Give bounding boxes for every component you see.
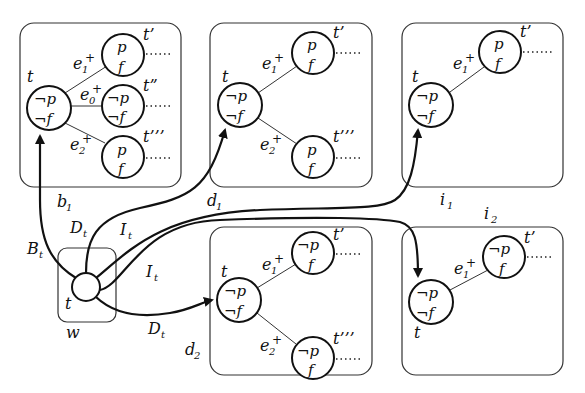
svg-text:¬f: ¬f (416, 107, 437, 125)
svg-text:1: 1 (447, 200, 453, 211)
svg-text:2: 2 (490, 214, 497, 225)
svg-text:p: p (494, 35, 504, 53)
svg-text:t”: t” (143, 76, 158, 95)
svg-text:¬f: ¬f (107, 108, 128, 126)
svg-text:t’: t’ (524, 228, 536, 247)
modal-logic-diagram: t w Bt Dt It It Dt b1 d1 i1 i2 d2 ¬p ¬f … (0, 0, 585, 393)
svg-text:p: p (117, 38, 127, 56)
svg-text:t’: t’ (520, 22, 532, 41)
box-label-i2: i2 (484, 204, 497, 225)
svg-text:+: + (274, 252, 284, 266)
svg-text:2: 2 (268, 145, 275, 156)
svg-text:t’: t’ (333, 225, 345, 244)
svg-text:¬p: ¬p (416, 284, 439, 302)
box-label-i1: i1 (440, 190, 453, 211)
arrow-label-B: Bt (26, 239, 44, 260)
svg-text:i: i (440, 190, 445, 209)
world-node (72, 273, 100, 301)
svg-text:t: t (83, 228, 88, 239)
arrow-D-to-d2 (96, 297, 212, 315)
svg-text:t’’’: t’’’ (333, 127, 355, 146)
svg-text:t: t (221, 262, 228, 281)
svg-text:t’’’: t’’’ (143, 127, 165, 146)
svg-text:¬p: ¬p (225, 87, 248, 105)
svg-text:I: I (145, 262, 153, 281)
svg-text:¬p: ¬p (34, 90, 57, 108)
svg-text:¬p: ¬p (488, 240, 511, 258)
model-i2: ¬p ¬f t ¬p f t’ e1+ (409, 228, 554, 342)
svg-text:t: t (128, 230, 133, 241)
svg-text:D: D (147, 319, 161, 338)
svg-text:t: t (412, 67, 419, 86)
box-label-b1: b1 (57, 192, 72, 213)
svg-text:1: 1 (82, 64, 88, 75)
svg-text:+: + (465, 51, 475, 65)
box-label-d2: d2 (185, 340, 200, 361)
svg-text:¬p: ¬p (224, 282, 247, 300)
world-node-label: t (65, 294, 72, 313)
svg-text:+: + (466, 256, 476, 270)
svg-text:t: t (39, 249, 44, 260)
svg-text:1: 1 (271, 265, 277, 276)
svg-text:p: p (307, 36, 317, 54)
svg-text:+: + (272, 333, 282, 347)
svg-text:+: + (85, 51, 95, 65)
svg-text:t’: t’ (143, 25, 155, 44)
svg-text:t: t (414, 323, 421, 342)
svg-text:D: D (69, 218, 83, 237)
svg-text:0: 0 (89, 95, 96, 106)
svg-text:1: 1 (462, 64, 468, 75)
arrow-label-D-top: Dt (69, 218, 88, 239)
arrow-label-I-top: It (119, 220, 133, 241)
svg-text:+: + (274, 51, 284, 65)
svg-text:¬f: ¬f (34, 110, 55, 128)
svg-text:t: t (154, 272, 159, 283)
svg-text:¬f: ¬f (224, 302, 245, 320)
svg-text:¬f: ¬f (416, 304, 437, 322)
svg-text:+: + (92, 82, 102, 96)
svg-text:¬p: ¬p (297, 236, 320, 254)
svg-text:B: B (26, 239, 39, 258)
model-i1: ¬p ¬f t p f t’ e1+ (409, 22, 552, 127)
svg-text:I: I (119, 220, 127, 239)
svg-text:+: + (82, 132, 92, 146)
svg-text:p: p (117, 141, 127, 159)
model-d1: ¬p ¬f t p f t’ p f t’’’ e1+ e2+ (218, 23, 362, 178)
svg-text:1: 1 (463, 269, 469, 280)
arrow-label-I-bottom: It (145, 262, 159, 283)
svg-text:+: + (272, 132, 282, 146)
svg-text:1: 1 (216, 201, 222, 212)
svg-text:2: 2 (193, 350, 200, 361)
svg-text:p: p (307, 141, 317, 159)
svg-text:t’: t’ (333, 23, 345, 42)
svg-text:t: t (222, 67, 229, 86)
svg-text:¬p: ¬p (416, 87, 439, 105)
arrow-label-D-bottom: Dt (147, 319, 166, 340)
svg-text:¬p: ¬p (107, 89, 130, 107)
model-b1: ¬p ¬f t p f t’ ¬p ¬f t” p f t’’’ e1+ e0+… (27, 25, 172, 178)
svg-text:2: 2 (78, 145, 85, 156)
svg-text:t: t (161, 329, 166, 340)
svg-text:i: i (484, 204, 489, 223)
svg-text:1: 1 (66, 202, 72, 213)
svg-text:1: 1 (271, 64, 277, 75)
svg-text:2: 2 (268, 346, 275, 357)
svg-text:t’’’: t’’’ (333, 329, 355, 348)
svg-text:t: t (27, 67, 34, 86)
box-label-d1: d1 (207, 191, 222, 212)
model-d2: ¬p ¬f t ¬p f t’ ¬p f t’’’ e1+ e2+ (217, 225, 362, 379)
world-box-label: w (66, 323, 80, 342)
svg-text:¬p: ¬p (297, 342, 320, 360)
svg-text:¬f: ¬f (225, 107, 246, 125)
